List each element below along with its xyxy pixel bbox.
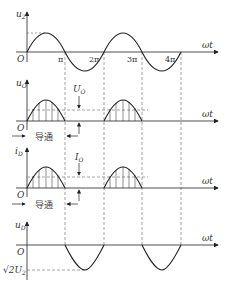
svg-text:ωt: ωt [202,109,213,119]
svg-text:O: O [17,123,25,133]
svg-text:iD: iD [15,146,23,157]
svg-text:uD: uD [15,220,26,231]
panel-u2: u2 ωt O π 2π 3π 4π [16,9,218,71]
origin-label: O [17,54,25,64]
peak-reverse-label: √2U2 [3,265,26,276]
x-label: ωt [202,40,213,50]
panel-uD: uD ωt O √2U2 [3,220,218,280]
svg-text:O: O [17,190,25,200]
panel-uO: uO UO ωt O 导通 [12,78,218,142]
diode-voltage-wave [65,245,181,270]
avg-current-label: IO [74,152,84,163]
tick-4pi: 4π [165,55,175,64]
avg-voltage-label: UO [73,84,86,95]
svg-text:ωt: ωt [202,176,213,186]
guide-lines [65,52,181,245]
svg-text:ωt: ωt [202,233,213,243]
y-label: u2 [16,9,26,20]
svg-text:uO: uO [16,78,27,89]
tick-2pi: 2π [89,55,99,64]
panel-iD: iD IO ωt O 导通 [12,146,218,210]
tick-pi: π [58,55,63,64]
svg-text:导通: 导通 [35,200,53,210]
conduct-label: 导通 [35,132,53,142]
half-wave-rectifier-waveforms: u2 ωt O π 2π 3π 4π uO UO ωt O 导通 [0,0,227,286]
tick-3pi: 3π [127,55,137,64]
svg-text:O: O [17,247,25,257]
hatching [33,100,135,121]
